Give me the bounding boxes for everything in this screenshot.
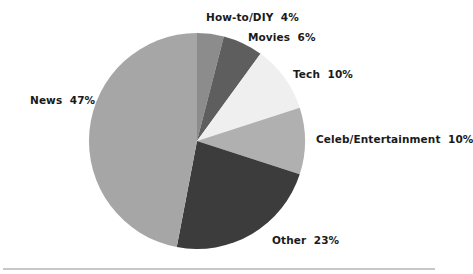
pie-slice-news — [89, 33, 197, 247]
label-other: Other 23% — [272, 234, 339, 246]
label-movies: Movies 6% — [248, 31, 316, 43]
label-tech: Tech 10% — [293, 68, 353, 80]
bottom-divider — [3, 268, 435, 270]
label-news: News 47% — [30, 94, 95, 106]
label-celeb: Celeb/Entertainment 10% — [316, 133, 473, 145]
label-howto: How-to/DIY 4% — [206, 11, 299, 23]
